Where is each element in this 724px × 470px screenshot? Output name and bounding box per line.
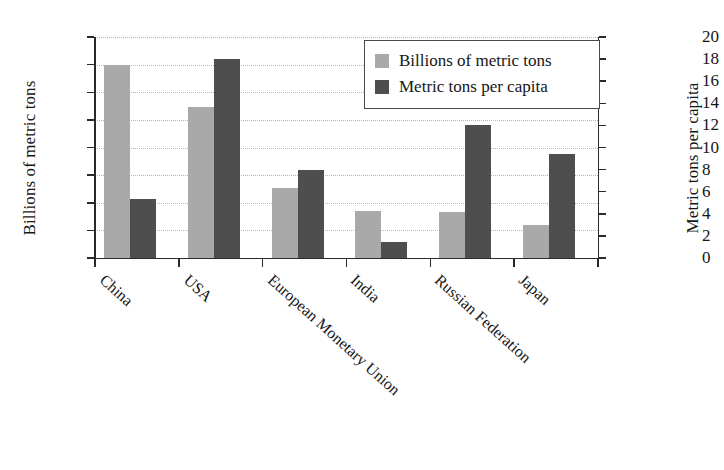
bar	[465, 125, 491, 258]
left-tick	[87, 147, 94, 149]
x-tick	[597, 258, 599, 267]
left-axis-title: Billions of metric tons	[20, 48, 40, 268]
right-tick-label: 18	[702, 50, 724, 67]
gridline	[95, 148, 598, 149]
gridline	[95, 203, 598, 204]
bar	[355, 211, 381, 259]
gridline	[95, 175, 598, 176]
right-tick-label: 10	[702, 139, 724, 156]
right-tick	[599, 80, 606, 82]
x-tick	[94, 258, 96, 267]
x-tick	[262, 258, 264, 267]
right-tick	[599, 235, 606, 237]
legend-label-billions: Billions of metric tons	[399, 51, 552, 71]
category-label: India	[347, 271, 383, 306]
bar	[272, 188, 298, 258]
right-tick	[599, 169, 606, 171]
gridline	[95, 120, 598, 121]
left-tick	[87, 36, 94, 38]
left-tick	[87, 119, 94, 121]
bar	[523, 225, 549, 258]
x-tick	[346, 258, 348, 267]
bar	[298, 170, 324, 258]
chart-legend: Billions of metric tons Metric tons per …	[364, 40, 600, 109]
left-tick	[87, 202, 94, 204]
right-tick-label: 8	[702, 161, 724, 178]
legend-swatch-icon-billions	[375, 54, 389, 68]
bar	[381, 242, 407, 258]
left-axis-line	[94, 37, 96, 258]
right-tick	[599, 58, 606, 60]
left-tick	[87, 92, 94, 94]
bar	[104, 65, 130, 258]
right-tick	[599, 191, 606, 193]
right-tick	[599, 36, 606, 38]
bar	[214, 59, 240, 258]
right-tick-label: 4	[702, 205, 724, 222]
right-tick-label: 6	[702, 183, 724, 200]
bar	[549, 154, 575, 258]
right-tick-label: 12	[702, 116, 724, 133]
legend-item-billions: Billions of metric tons	[375, 48, 589, 74]
right-tick-label: 14	[702, 94, 724, 111]
legend-label-per-capita: Metric tons per capita	[399, 77, 548, 97]
right-tick-label: 2	[702, 227, 724, 244]
left-tick	[87, 174, 94, 176]
right-tick	[599, 147, 606, 149]
category-label: China	[96, 271, 136, 310]
right-tick-label: 16	[702, 72, 724, 89]
left-tick	[87, 64, 94, 66]
bar	[130, 199, 156, 258]
x-tick	[178, 258, 180, 267]
right-axis-title: Metric tons per capita	[683, 48, 703, 268]
right-tick-label: 0	[702, 249, 724, 266]
gridline	[95, 37, 598, 38]
legend-item-per-capita: Metric tons per capita	[375, 74, 589, 100]
right-tick	[599, 103, 606, 105]
right-tick	[599, 257, 606, 259]
left-tick	[87, 257, 94, 259]
bar	[439, 212, 465, 258]
right-tick-label: 20	[702, 28, 724, 45]
right-tick	[599, 125, 606, 127]
left-tick	[87, 230, 94, 232]
category-label: Japan	[515, 271, 554, 309]
category-label: European Monetary Union	[264, 271, 404, 399]
legend-swatch-icon-per-capita	[375, 80, 389, 94]
right-tick	[599, 213, 606, 215]
bar	[188, 107, 214, 258]
x-tick	[430, 258, 432, 267]
x-tick	[513, 258, 515, 267]
category-label: USA	[180, 271, 216, 306]
